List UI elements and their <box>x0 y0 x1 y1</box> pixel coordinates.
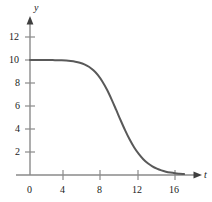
plot-canvas <box>0 0 212 202</box>
y-axis-label: y <box>34 3 38 13</box>
x-tick-label-12: 12 <box>132 185 142 195</box>
x-tick-label-4: 4 <box>60 185 65 195</box>
y-tick-label-8: 8 <box>15 78 20 88</box>
x-tick-label-0: 0 <box>27 185 32 195</box>
x-tick-label-16: 16 <box>169 185 179 195</box>
y-tick-label-10: 10 <box>9 55 19 65</box>
y-tick-label-6: 6 <box>15 101 20 111</box>
y-tick-label-12: 12 <box>9 32 19 42</box>
y-axis <box>27 16 34 175</box>
y-tick-label-4: 4 <box>15 124 20 134</box>
x-axis-label: t <box>204 170 207 180</box>
y-tick-label-2: 2 <box>15 147 20 157</box>
x-tick-label-8: 8 <box>97 185 102 195</box>
chart-figure: 12 10 8 6 4 2 0 4 8 12 16 y t <box>0 0 212 202</box>
data-curve-line <box>30 60 184 174</box>
